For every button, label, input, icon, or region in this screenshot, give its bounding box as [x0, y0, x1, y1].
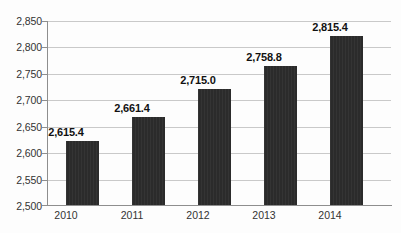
bar-chart: 2,850 2,800 2,750 2,700 2,650 2,600 2,55…	[0, 0, 401, 233]
bar-2013	[264, 66, 297, 205]
y-axis-tick-label: 2,550	[2, 174, 42, 186]
bar-2014	[330, 36, 363, 205]
value-label-2012: 2,715.0	[165, 74, 231, 86]
y-axis-tick-label: 2,600	[2, 147, 42, 159]
y-axis-labels: 2,850 2,800 2,750 2,700 2,650 2,600 2,55…	[0, 0, 42, 233]
value-label-2010: 2,615.4	[33, 126, 99, 138]
x-axis-label-2010: 2010	[36, 209, 96, 221]
y-axis-tick-label: 2,750	[2, 68, 42, 80]
x-axis-line	[47, 205, 392, 206]
x-axis-label-2012: 2012	[168, 209, 228, 221]
value-label-2014: 2,815.4	[297, 21, 363, 33]
x-axis-label-2013: 2013	[234, 209, 294, 221]
x-axis-label-2011: 2011	[102, 209, 162, 221]
y-axis-tick-label: 2,850	[2, 15, 42, 27]
y-axis-tick-label: 2,700	[2, 94, 42, 106]
bar-2010	[66, 141, 99, 205]
x-axis-label-2014: 2014	[300, 209, 360, 221]
y-axis-tick-label: 2,800	[2, 41, 42, 53]
value-label-2013: 2,758.8	[231, 51, 297, 63]
value-label-2011: 2,661.4	[99, 102, 165, 114]
bar-2012	[198, 89, 231, 205]
bar-2011	[132, 117, 165, 205]
